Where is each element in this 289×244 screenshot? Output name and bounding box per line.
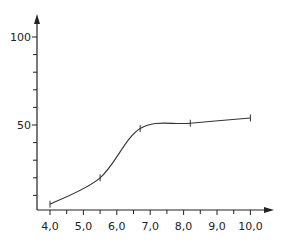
x-tick-label: 7,0 [141, 220, 159, 233]
x-tick-label: 9,0 [208, 220, 226, 233]
x-tick-label: 10,0 [238, 220, 263, 233]
data-curve [50, 118, 250, 204]
x-tick-label: 8,0 [175, 220, 193, 233]
y-tick-label: 100 [10, 31, 31, 44]
x-axis-arrow-icon [264, 207, 274, 213]
y-tick-label: 50 [17, 119, 31, 132]
axes [34, 14, 274, 213]
data-markers [50, 114, 250, 207]
ticks [32, 37, 250, 215]
x-tick-label: 6,0 [108, 220, 126, 233]
y-axis-arrow-icon [34, 14, 40, 24]
chart: 4,05,06,07,08,09,010,050100 [0, 0, 289, 244]
x-tick-label: 5,0 [75, 220, 93, 233]
line-chart: 4,05,06,07,08,09,010,050100 [0, 0, 289, 244]
x-tick-label: 4,0 [41, 220, 59, 233]
